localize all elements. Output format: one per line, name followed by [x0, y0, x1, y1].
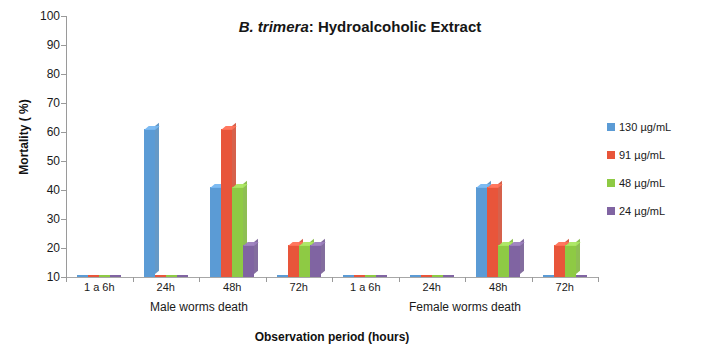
plot-area: 100908070605040302010	[66, 16, 598, 277]
legend-item[interactable]: 24 µg/mL	[607, 197, 703, 225]
bar	[243, 245, 254, 277]
y-axis-tick	[61, 74, 66, 75]
x-axis-group-labels: Male worms deathFemale worms death	[66, 300, 598, 318]
legend-item[interactable]: 48 µg/mL	[607, 169, 703, 197]
bar-face	[210, 187, 221, 277]
x-axis-tick-label: 1 a 6h	[84, 281, 115, 293]
x-axis-tick-label: 24h	[157, 281, 175, 293]
x-axis-tick-label: 72h	[290, 281, 308, 293]
y-axis-tick-label: 90	[47, 38, 60, 52]
bar	[498, 245, 509, 277]
chart-container: B. trimera: Hydroalcoholic Extract Morta…	[0, 0, 704, 356]
bar	[144, 129, 155, 277]
y-axis-tick-label: 100	[40, 9, 60, 23]
bar	[476, 187, 487, 277]
bar-face	[243, 245, 254, 277]
bar-side	[155, 123, 159, 274]
bar-face	[554, 245, 565, 277]
y-axis-tick-label: 80	[47, 67, 60, 81]
y-axis-tick	[61, 16, 66, 17]
y-axis-tick-label: 50	[47, 154, 60, 168]
x-axis-group-label: Female worms death	[409, 300, 521, 314]
y-axis-tick-label: 30	[47, 212, 60, 226]
bar	[487, 187, 498, 277]
legend-item-label: 48 µg/mL	[619, 177, 665, 189]
y-axis-tick	[61, 103, 66, 104]
x-axis-tick-label: 48h	[223, 281, 241, 293]
bar-face	[288, 245, 299, 277]
bar	[299, 245, 310, 277]
y-axis-tick-label: 60	[47, 125, 60, 139]
bar	[210, 187, 221, 277]
x-axis-tick-labels: 1 a 6h24h48h72h1 a 6h24h48h72h	[66, 281, 598, 297]
legend-item[interactable]: 130 µg/mL	[607, 113, 703, 141]
bar-face	[476, 187, 487, 277]
bar-face	[565, 245, 576, 277]
y-axis-tick-label: 40	[47, 183, 60, 197]
x-axis-title: Observation period (hours)	[66, 330, 598, 344]
y-axis-tick	[61, 45, 66, 46]
bar	[554, 245, 565, 277]
bar-face	[232, 187, 243, 277]
y-axis-tick-labels: 100908070605040302010	[24, 16, 60, 277]
legend-swatch-icon	[607, 207, 615, 215]
y-axis-tick-label: 70	[47, 96, 60, 110]
x-axis-tick-label: 72h	[556, 281, 574, 293]
x-axis-tick-label: 1 a 6h	[350, 281, 381, 293]
bar-face	[144, 129, 155, 277]
chart-legend: 130 µg/mL91 µg/mL48 µg/mL24 µg/mL	[607, 113, 703, 225]
x-axis-tick	[598, 277, 599, 282]
bar-face	[310, 245, 321, 277]
bar-face	[299, 245, 310, 277]
x-axis-tick-label: 24h	[423, 281, 441, 293]
bar-face	[498, 245, 509, 277]
bar	[509, 245, 520, 277]
bar-face	[509, 245, 520, 277]
y-axis-tick	[61, 190, 66, 191]
legend-item-label: 130 µg/mL	[619, 121, 671, 133]
legend-swatch-icon	[607, 123, 615, 131]
y-axis-tick	[61, 219, 66, 220]
y-axis-tick-label: 20	[47, 241, 60, 255]
y-axis-tick	[61, 161, 66, 162]
bar-face	[487, 187, 498, 277]
bar-face	[221, 129, 232, 277]
legend-item[interactable]: 91 µg/mL	[607, 141, 703, 169]
bars-layer	[66, 16, 598, 277]
x-axis-group-label: Male worms death	[150, 300, 248, 314]
legend-item-label: 24 µg/mL	[619, 205, 665, 217]
bar	[310, 245, 321, 277]
legend-swatch-icon	[607, 151, 615, 159]
legend-swatch-icon	[607, 179, 615, 187]
bar	[221, 129, 232, 277]
bar	[232, 187, 243, 277]
bar	[288, 245, 299, 277]
x-axis-tick-label: 48h	[489, 281, 507, 293]
bar	[565, 245, 576, 277]
y-axis-tick-label: 10	[47, 270, 60, 284]
y-axis-tick	[61, 248, 66, 249]
y-axis-tick	[61, 132, 66, 133]
legend-item-label: 91 µg/mL	[619, 149, 665, 161]
